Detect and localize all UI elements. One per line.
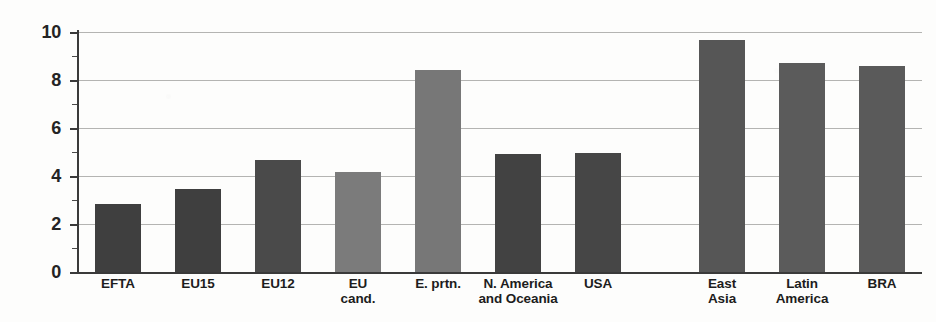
bar bbox=[255, 160, 300, 272]
y-tick-major: 0 bbox=[70, 272, 77, 274]
x-axis-label-line: America bbox=[748, 291, 856, 306]
y-tick-label: 8 bbox=[51, 70, 61, 91]
bar bbox=[95, 204, 140, 272]
bar-chart: 0246810 EFTAEU15EU12EUcand.E. prtn.N. Am… bbox=[0, 0, 936, 322]
plot-area bbox=[78, 32, 922, 272]
y-tick-label: 4 bbox=[51, 166, 61, 187]
x-axis-label: BRA bbox=[828, 276, 936, 291]
y-tick-major: 2 bbox=[70, 224, 77, 226]
y-tick-minor bbox=[72, 152, 77, 153]
y-tick-major: 4 bbox=[70, 176, 77, 178]
y-tick-major: 6 bbox=[70, 128, 77, 130]
bar bbox=[859, 66, 904, 272]
y-tick-major: 10 bbox=[70, 32, 77, 34]
bar bbox=[415, 70, 460, 272]
y-tick-minor bbox=[72, 104, 77, 105]
x-axis-label-line: BRA bbox=[828, 276, 936, 291]
bar bbox=[575, 153, 620, 272]
y-tick-minor bbox=[72, 200, 77, 201]
x-axis-label: USA bbox=[544, 276, 652, 291]
bar bbox=[699, 40, 744, 272]
y-tick-label: 10 bbox=[42, 22, 61, 43]
bar bbox=[335, 172, 380, 272]
y-axis: 0246810 bbox=[77, 30, 79, 274]
y-tick-major: 8 bbox=[70, 80, 77, 82]
x-axis-baseline bbox=[78, 272, 922, 274]
y-tick-label: 6 bbox=[51, 118, 61, 139]
x-axis-label-line: cand. bbox=[304, 291, 412, 306]
gridline bbox=[78, 32, 922, 33]
y-tick-label: 0 bbox=[51, 262, 61, 283]
bar bbox=[495, 154, 540, 272]
x-axis-labels: EFTAEU15EU12EUcand.E. prtn.N. Americaand… bbox=[78, 276, 922, 322]
y-tick-label: 2 bbox=[51, 214, 61, 235]
y-tick-minor bbox=[72, 248, 77, 249]
bar bbox=[175, 189, 220, 272]
y-tick-minor bbox=[72, 56, 77, 57]
x-axis-label-line: USA bbox=[544, 276, 652, 291]
x-axis-label-line: and Oceania bbox=[464, 291, 572, 306]
bar bbox=[779, 63, 824, 272]
